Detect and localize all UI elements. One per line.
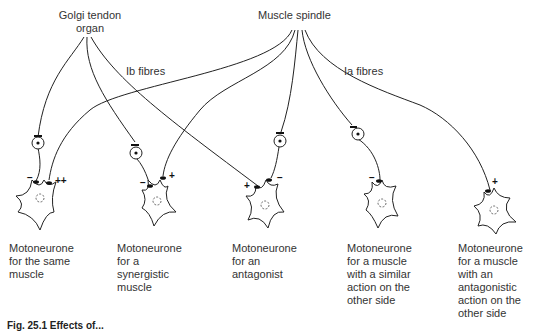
- ia-fibres-label: Ia fibres: [344, 65, 383, 78]
- muscle-spindle-label: Muscle spindle: [258, 9, 331, 22]
- motoneurone-antagonist: [246, 180, 284, 228]
- sign-synergist-excite: +: [169, 170, 175, 181]
- sign-contralateral-antagonist-excite: +: [492, 176, 498, 187]
- sign-same-excite: ++: [55, 175, 67, 186]
- motoneurone-label-contralateral-similar: Motoneurone for a muscle with a similar …: [347, 242, 412, 307]
- sign-antagonist-inhibit: −: [277, 172, 283, 183]
- ib-fibres-label: Ib fibres: [126, 65, 165, 78]
- sign-same-inhibit: −: [27, 172, 33, 183]
- motoneurone-contralateral-similar: [364, 180, 398, 228]
- ia-fibre-to-synergist: [163, 30, 295, 176]
- ia-fibre-to-same-muscle: [49, 30, 292, 180]
- ia-fibre-to-contralateral-antagonist: [305, 30, 490, 190]
- sign-contralateral-similar-inhibit: −: [369, 172, 375, 183]
- ib-fibre-to-interneuron-2: [87, 37, 135, 142]
- motoneurone-label-same-muscle: Motoneurone for the same muscle: [9, 242, 74, 281]
- ia-fibre-to-interneuron-3: [281, 30, 298, 132]
- sign-antagonist-excite: +: [244, 180, 250, 191]
- motoneurone-label-contralateral-antagonist: Motoneurone for a muscle with an antagon…: [458, 242, 523, 320]
- motoneurone-label-synergist: Motoneurone for a synergistic muscle: [117, 242, 182, 294]
- motoneurone-contralateral-antagonist: [474, 188, 516, 234]
- motoneurone-synergist: [142, 180, 176, 226]
- ib-fibre-to-antagonist: [91, 37, 258, 186]
- golgi-tendon-organ-label: Golgi tendon organ: [40, 9, 140, 35]
- motoneurone-same-muscle: [16, 180, 56, 230]
- sign-synergist-inhibit: −: [140, 177, 146, 188]
- motoneurone-label-antagonist: Motoneurone for an antagonist: [232, 242, 297, 281]
- figure-caption: Fig. 25.1 Effects of...: [7, 320, 104, 331]
